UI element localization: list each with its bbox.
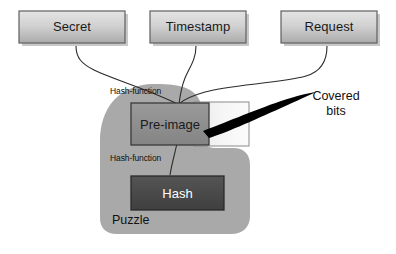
diagram-svg: [0, 0, 396, 254]
hash-box: [131, 176, 224, 210]
input-box-request-group[interactable]: [281, 11, 380, 46]
pre-image-box: [131, 103, 209, 145]
input-box-timestamp-group[interactable]: [150, 11, 249, 46]
input-box-secret-group[interactable]: [19, 11, 128, 46]
diagram-canvas: Secret Timestamp Request Hash-function P…: [0, 0, 396, 254]
